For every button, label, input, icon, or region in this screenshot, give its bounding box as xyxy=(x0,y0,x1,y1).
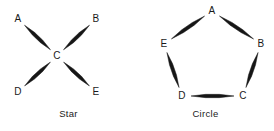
edge-d-c xyxy=(25,62,51,86)
node-label-c: C xyxy=(53,50,60,61)
communication-network-figure: ABCDE Star ABCDE Circle xyxy=(0,0,274,131)
node-label-d: D xyxy=(14,86,21,97)
edge-e-a xyxy=(171,16,204,39)
node-label-d: D xyxy=(178,90,185,101)
circle-network-panel: ABCDE Circle xyxy=(137,0,274,131)
edge-a-b xyxy=(219,16,253,39)
star-network-diagram: ABCDE xyxy=(0,0,137,110)
node-label-b: B xyxy=(258,38,265,49)
edge-b-c xyxy=(64,25,90,50)
node-label-b: B xyxy=(93,13,100,24)
circle-network-diagram: ABCDE xyxy=(137,0,274,110)
node-label-e: E xyxy=(161,38,168,49)
edge-e-c xyxy=(64,62,90,86)
edge-a-c xyxy=(25,25,51,50)
star-caption: Star xyxy=(0,108,137,119)
star-network-panel: ABCDE Star xyxy=(0,0,137,131)
edge-d-e xyxy=(167,53,179,88)
node-label-a: A xyxy=(15,13,22,24)
edge-b-c xyxy=(246,53,258,88)
node-label-e: E xyxy=(93,86,100,97)
node-label-a: A xyxy=(209,5,216,16)
edge-c-d xyxy=(191,94,234,97)
node-label-c: C xyxy=(239,90,246,101)
circle-caption: Circle xyxy=(137,108,274,119)
